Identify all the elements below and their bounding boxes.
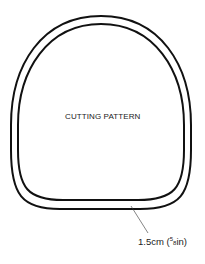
seam-unit: in) xyxy=(176,236,187,247)
leader-line xyxy=(131,206,148,233)
seam-metric: 1.5cm ( xyxy=(138,236,170,247)
seam-allowance-label: 1.5cm (58in) xyxy=(138,236,187,247)
pattern-diagram xyxy=(0,0,205,264)
pattern-title: CUTTING PATTERN xyxy=(65,112,140,121)
